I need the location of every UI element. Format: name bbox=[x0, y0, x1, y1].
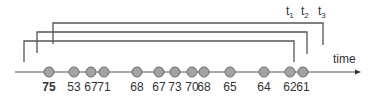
data-point bbox=[170, 67, 180, 77]
data-point-label: 68 bbox=[130, 80, 144, 94]
window-bracket-t1 bbox=[24, 41, 294, 62]
data-point bbox=[298, 67, 308, 77]
window-bracket-t2 bbox=[37, 32, 307, 54]
window-label-t3: t3 bbox=[318, 4, 326, 20]
data-point bbox=[154, 67, 164, 77]
data-point bbox=[44, 67, 54, 77]
time-axis-label: time bbox=[333, 52, 356, 66]
data-point-label: 73 bbox=[168, 80, 182, 94]
time-axis-arrow-icon bbox=[355, 70, 361, 75]
data-point-label: 64 bbox=[257, 80, 271, 94]
data-point-label: 71 bbox=[97, 80, 111, 94]
data-point-label: 65 bbox=[223, 80, 237, 94]
data-point bbox=[259, 67, 269, 77]
data-point-label: 67 bbox=[152, 80, 166, 94]
data-point bbox=[132, 67, 142, 77]
data-point bbox=[285, 67, 295, 77]
time-window-diagram: t1 t2 t3 time 75536771686773706865646261 bbox=[0, 0, 374, 97]
window-bracket-t3 bbox=[53, 23, 323, 45]
data-point-label: 67 bbox=[84, 80, 98, 94]
points-layer: 75536771686773706865646261 bbox=[42, 67, 310, 94]
data-point bbox=[187, 67, 197, 77]
data-point-label: 61 bbox=[296, 80, 310, 94]
data-point bbox=[86, 67, 96, 77]
window-label-t1: t1 bbox=[286, 4, 294, 20]
data-point-label: 53 bbox=[67, 80, 81, 94]
data-point bbox=[225, 67, 235, 77]
data-point bbox=[69, 67, 79, 77]
window-label-t2: t2 bbox=[301, 4, 309, 20]
data-point bbox=[99, 67, 109, 77]
data-point-label: 75 bbox=[42, 80, 56, 94]
data-point-label: 62 bbox=[283, 80, 297, 94]
data-point-label: 68 bbox=[197, 80, 211, 94]
data-point bbox=[199, 67, 209, 77]
